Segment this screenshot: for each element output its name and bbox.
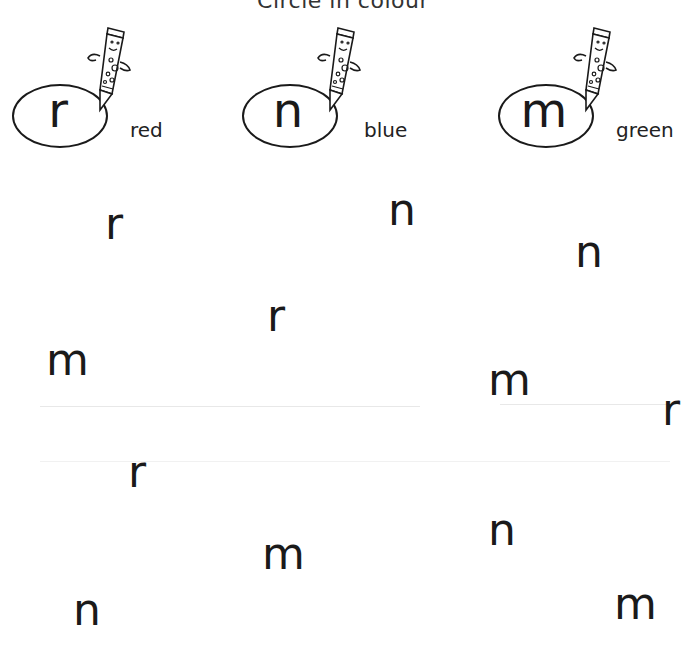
pencil-character-icon xyxy=(564,22,624,114)
letter-n[interactable]: n xyxy=(488,508,516,552)
letter-m[interactable]: m xyxy=(614,582,657,626)
pencil-character-icon xyxy=(78,22,138,114)
letter-n[interactable]: n xyxy=(73,588,101,632)
pencil-character-icon xyxy=(308,22,368,114)
letter-r[interactable]: r xyxy=(267,294,285,338)
key-item-r: r red xyxy=(0,20,220,170)
letter-m[interactable]: m xyxy=(488,358,531,402)
letter-m[interactable]: m xyxy=(46,338,89,382)
letter-r[interactable]: r xyxy=(662,388,680,432)
faint-scan-line xyxy=(40,406,420,407)
key-color-word: blue xyxy=(364,118,407,142)
letter-n[interactable]: n xyxy=(388,188,416,232)
key-item-n: n blue xyxy=(230,20,450,170)
key-item-m: m green xyxy=(486,20,686,170)
letter-m[interactable]: m xyxy=(262,532,305,576)
key-color-word: green xyxy=(616,118,674,142)
letter-r[interactable]: r xyxy=(128,450,146,494)
letter-n[interactable]: n xyxy=(575,230,603,274)
key-color-word: red xyxy=(130,118,163,142)
letter-r[interactable]: r xyxy=(105,202,123,246)
worksheet-title: Circle in colour xyxy=(0,0,686,13)
